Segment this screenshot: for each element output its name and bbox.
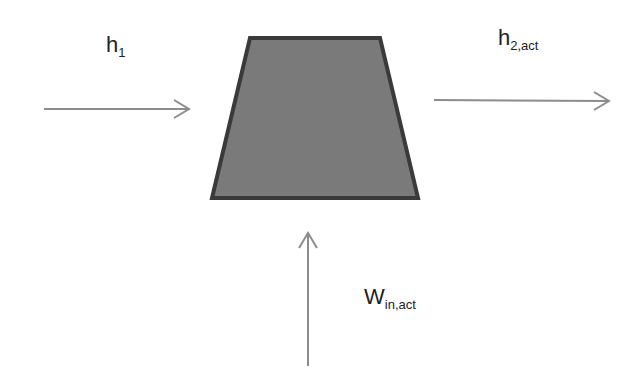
work-label-main: W <box>364 284 385 309</box>
inlet-arrow <box>44 100 189 118</box>
diagram-canvas <box>0 0 640 383</box>
outlet-arrow <box>434 92 609 110</box>
work-label-sub: in,act <box>385 297 416 312</box>
device-trapezoid <box>212 38 418 198</box>
outlet-label-main: h <box>498 25 510 50</box>
work-input-arrow <box>299 233 317 366</box>
inlet-label-main: h <box>106 32 118 57</box>
inlet-label-sub: 1 <box>118 45 125 60</box>
inlet-enthalpy-label: h1 <box>106 32 125 60</box>
outlet-label-sub: 2,act <box>510 38 538 53</box>
outlet-enthalpy-label: h2,act <box>498 25 538 53</box>
work-input-label: Win,act <box>364 284 416 312</box>
